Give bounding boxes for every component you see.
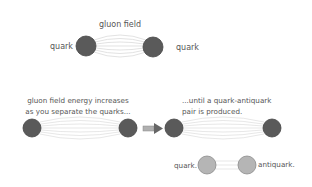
- gluon-field-lines-stretch: [40, 117, 120, 139]
- quark-break-left: [165, 119, 183, 137]
- gluon-field-lines-break: [182, 117, 264, 139]
- gluon-field-lines-pair: [215, 161, 239, 169]
- stretch-caption-line1: gluon field energy increases: [27, 96, 129, 105]
- stretch-caption-line2: as you separate the quarks...: [25, 107, 130, 116]
- quark-pair-label: quark.: [174, 161, 197, 170]
- break-panel: ...until a quark-antiquark pair is produ…: [165, 96, 281, 139]
- top-panel: gluon field quark quark: [50, 20, 199, 57]
- quark-break-right: [263, 119, 281, 137]
- gluon-field-lines-top: [94, 35, 146, 57]
- produced-pair: quark. antiquark.: [174, 156, 295, 174]
- quark-stretch-left: [23, 119, 41, 137]
- antiquark-pair: [238, 156, 256, 174]
- quark-label-top-right: quark: [176, 43, 199, 52]
- quark-confinement-diagram: gluon field quark quark gluon field ener…: [0, 0, 312, 187]
- quark-top-left: [76, 36, 96, 56]
- right-arrow-icon: [143, 123, 163, 134]
- stretch-panel: gluon field energy increases as you sepa…: [23, 96, 137, 139]
- quark-stretch-right: [119, 119, 137, 137]
- quark-label-top-left: quark: [50, 42, 73, 51]
- quark-pair: [198, 156, 216, 174]
- break-caption-line2: pair is produced.: [182, 107, 242, 116]
- break-caption-line1: ...until a quark-antiquark: [182, 96, 272, 105]
- quark-top-right: [143, 37, 163, 57]
- gluon-field-label: gluon field: [99, 20, 141, 29]
- antiquark-pair-label: antiquark.: [258, 160, 295, 169]
